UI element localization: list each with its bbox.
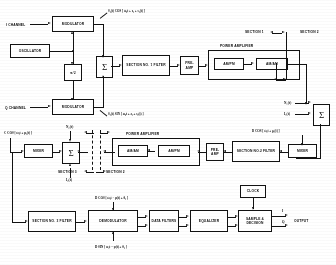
output-i-label: I xyxy=(282,209,283,213)
i-channel-label: I CHANNEL xyxy=(6,23,25,27)
amam-ampm-rx-arrow-icon xyxy=(147,149,150,151)
power-amplifier-rx-label: POWER AMPLIFIER xyxy=(126,132,159,136)
output-wire-q xyxy=(272,226,286,227)
osc-to-modi-wire xyxy=(73,32,74,51)
q-channel-label: Q CHANNEL xyxy=(5,106,26,110)
oscillator-wire xyxy=(50,51,73,52)
pa-rx-in-arrow-icon xyxy=(103,150,106,152)
eq-q-leader xyxy=(100,110,108,116)
amam-rx-block[interactable]: AM/AM xyxy=(118,145,148,157)
output-arrow-q-icon xyxy=(285,224,288,226)
ampm-rx-block[interactable]: AM/PM xyxy=(158,145,190,157)
section1-arrow-icon-top xyxy=(270,31,273,33)
section-no3-filter-block[interactable]: SECTION NO. 3 FILTER xyxy=(28,211,76,232)
modi-down-wire xyxy=(103,24,104,56)
filter2-mixer2-arrow-icon xyxy=(279,150,282,152)
eq-d-label: D COS [ ω₂t − μ(t) + θ₁ ] xyxy=(95,196,128,200)
pa-out-wire xyxy=(288,64,307,65)
output-label: OUTPUT xyxy=(294,219,308,223)
demodulator-block[interactable]: DEMODULATOR xyxy=(88,210,138,232)
q-channel-wire xyxy=(30,107,48,108)
pa-down-wire xyxy=(306,64,307,104)
i-channel-wire xyxy=(30,24,48,25)
transmitter-summer[interactable]: Σ xyxy=(96,56,113,78)
feedback-to-filter3-wire xyxy=(12,222,26,223)
filter3-demod-arrow-icon xyxy=(84,220,87,222)
demod-data-arrow-i-icon xyxy=(145,215,148,217)
section-foot-arrow-l-icon xyxy=(274,78,277,80)
osc-modi-arrow-icon xyxy=(71,31,73,34)
equalizer-block[interactable]: EQUALIZER xyxy=(190,210,228,232)
eq-i-branch: S₁(t) COS [ ω₀t + z₁ + s₁(t) ] xyxy=(108,9,145,13)
section3-wire xyxy=(86,172,94,173)
mixer-top-block[interactable]: MIXER xyxy=(24,144,53,158)
dash-top-arrow-l-icon xyxy=(84,131,87,133)
section-no1-filter-block[interactable]: SECTION NO. 1 FILTER xyxy=(122,55,170,76)
pa-preamp-rx-arrow-icon xyxy=(197,150,200,152)
modq-sum-arrow-icon xyxy=(102,75,104,78)
ampm-tx-block[interactable]: AM/PM xyxy=(214,58,244,70)
q-channel-arrow-icon xyxy=(48,105,51,107)
section-1-label-top: SECTION 1 xyxy=(245,30,264,34)
section2-arrow-icon-top xyxy=(282,31,285,33)
preamp-tx-block[interactable]: PRE- AMP xyxy=(180,56,199,75)
dash-top-wire-l xyxy=(86,133,94,134)
oscillator-block[interactable]: OSCILLATOR xyxy=(10,44,50,58)
section-no2-filter-block[interactable]: SECTION NO.2 FILTER xyxy=(232,141,280,162)
amam-tx-block[interactable]: AM/AM xyxy=(256,58,288,70)
noise-i1-label: I₁(t) xyxy=(284,112,290,116)
eq-q-branch: S₂(t) SIN [ ω₀t + z₂ + s₂(t) ] xyxy=(108,112,143,116)
noise-n2-label: N₂(t) xyxy=(66,125,73,129)
output-arrow-i-icon xyxy=(285,214,288,216)
power-amplifier-tx-label: POWER AMPLIFIER xyxy=(220,44,253,48)
noise-n2-arrow-icon xyxy=(69,139,71,142)
eq-sin-label: D SIN [ ω₂t − μ(t) + θ₂ ] xyxy=(95,245,127,249)
eq-i-leader xyxy=(100,13,108,19)
data-eq-arrow-i-icon xyxy=(186,215,189,217)
modulator-q-block[interactable]: MODULATOR xyxy=(52,99,94,115)
receiver-summer[interactable]: Σ xyxy=(62,142,80,164)
channel-summer[interactable]: Σ xyxy=(313,104,330,126)
section2-mid-arrow-icon xyxy=(103,170,106,172)
section-boundary-line-top xyxy=(286,32,287,80)
preamp-filter2-arrow-icon xyxy=(223,150,226,152)
section-dashed-line-2 xyxy=(100,130,101,170)
section-marker-wire-top xyxy=(272,33,282,34)
modulator-i-block[interactable]: MODULATOR xyxy=(52,16,94,32)
mixer-bottom-block[interactable]: MIXER xyxy=(288,144,317,158)
eq-b-label: B COS [ ω₁t + ρ₁(t) ] xyxy=(252,129,280,133)
i-channel-arrow-icon xyxy=(48,22,51,24)
sum-in-arrow-icon xyxy=(77,150,80,152)
dash-top-arrow-r-icon xyxy=(107,131,110,133)
eq-b-arrow-icon xyxy=(301,143,303,146)
demod-cos-arrow-icon xyxy=(112,208,114,211)
diagram-canvas: I CHANNEL MODULATOR OSCILLATOR π/2 Q CHA… xyxy=(0,0,336,265)
section-dashed-line-1 xyxy=(92,130,93,170)
channel-to-mixer2-wire xyxy=(296,158,321,159)
noise-i2-arrow-icon xyxy=(69,163,71,166)
noise-i2-label: I₂(t) xyxy=(66,178,72,182)
phase-shift-block[interactable]: π/2 xyxy=(64,64,82,81)
feedback-down-wire xyxy=(12,152,13,222)
noise-i1-arrow-icon xyxy=(308,112,311,114)
sample-decision-block[interactable]: SAMPLE & DECISION xyxy=(238,210,272,232)
section-2-label-top: SECTION 2 xyxy=(300,30,319,34)
shift-to-modq-wire xyxy=(73,81,74,99)
section-3-label-mid: SECTION 3 xyxy=(58,170,77,174)
demod-data-arrow-q-icon xyxy=(145,224,148,226)
data-eq-arrow-q-icon xyxy=(186,224,189,226)
output-wire-i xyxy=(272,216,286,217)
channel-down-wire xyxy=(320,124,321,159)
clock-sample-arrow-icon xyxy=(252,207,254,210)
noise-n1-label: N₁(t) xyxy=(284,101,291,105)
noise-i1-wire xyxy=(295,114,309,115)
section-2-label-mid: SECTION 2 xyxy=(106,170,125,174)
eq-c-leader xyxy=(10,138,11,152)
eq-c-label: C COS [ ω₂t + μ₂(t) ] xyxy=(4,131,32,135)
data-filters-block[interactable]: DATA FILTERS xyxy=(149,210,179,232)
demod-sin-arrow-icon xyxy=(112,231,114,234)
modq-out-wire xyxy=(94,107,104,108)
clock-block[interactable]: CLOCK xyxy=(240,185,266,198)
section-foot-arrow-r-icon xyxy=(283,78,286,80)
preamp-rx-block[interactable]: PRE- AMP xyxy=(206,143,224,161)
